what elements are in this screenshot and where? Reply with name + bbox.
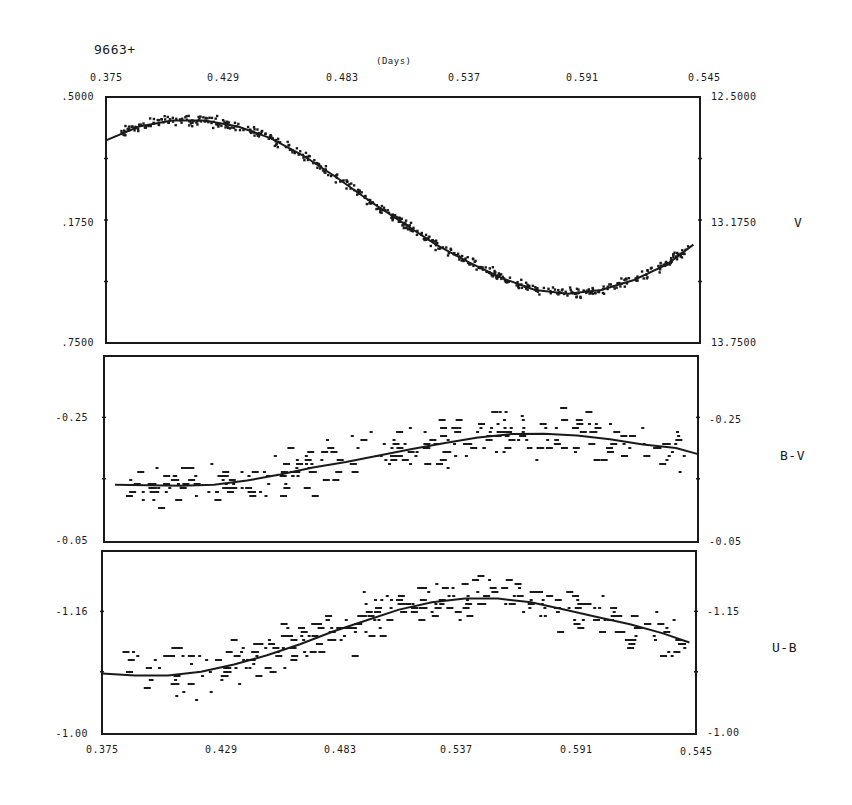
data-point: [575, 296, 577, 298]
data-point: [528, 607, 531, 609]
data-point: [436, 607, 439, 609]
data-point: [532, 285, 534, 287]
data-point: [475, 268, 477, 270]
data-point: [473, 261, 475, 263]
data-point: [535, 459, 538, 461]
data-point: [225, 671, 228, 673]
data-point: [265, 667, 272, 669]
data-point: [467, 595, 470, 597]
data-point: [412, 603, 415, 605]
data-point: [632, 615, 635, 617]
data-point: [154, 487, 157, 489]
data-point: [325, 615, 332, 617]
data-point: [561, 447, 568, 449]
data-point: [509, 603, 516, 605]
data-point: [503, 427, 506, 429]
data-point: [364, 631, 367, 633]
data-point: [198, 655, 201, 657]
data-point: [441, 603, 444, 605]
data-point: [543, 607, 546, 609]
data-point: [380, 599, 383, 601]
data-point: [530, 599, 533, 601]
data-point: [619, 285, 621, 287]
data-point: [188, 683, 195, 685]
data-point: [305, 655, 308, 657]
data-point: [561, 289, 563, 291]
data-point: [310, 651, 317, 653]
data-point: [544, 427, 547, 429]
data-point: [557, 631, 564, 633]
data-point: [479, 427, 482, 429]
data-point: [129, 479, 132, 481]
data-point: [396, 431, 403, 433]
data-point: [662, 443, 669, 445]
data-point: [452, 587, 455, 589]
data-point: [577, 288, 579, 290]
data-point: [256, 128, 258, 130]
data-point: [543, 287, 545, 289]
data-point: [409, 463, 412, 465]
data-point: [628, 643, 635, 645]
data-point: [400, 611, 407, 613]
data-point: [222, 479, 225, 481]
v-left-tick-0: .5000: [40, 91, 94, 102]
data-point: [211, 117, 213, 119]
data-point: [296, 475, 299, 477]
bottom-x-tick-4: 0.591: [560, 744, 593, 755]
data-point: [449, 248, 451, 250]
data-point: [595, 427, 602, 429]
data-point: [424, 463, 431, 465]
data-point: [122, 651, 129, 653]
data-point: [522, 419, 525, 421]
data-point: [375, 208, 377, 210]
data-point: [345, 179, 347, 181]
data-point: [434, 603, 437, 605]
data-point: [657, 623, 664, 625]
data-point: [554, 443, 561, 445]
data-point: [248, 491, 251, 493]
data-point: [442, 451, 449, 453]
data-point: [137, 471, 144, 473]
data-point: [431, 611, 434, 613]
data-point: [445, 246, 447, 248]
data-point: [644, 623, 651, 625]
data-point: [405, 227, 407, 229]
v-right-tick-2: 13.7500: [711, 337, 757, 348]
data-point: [504, 603, 507, 605]
data-point: [577, 627, 584, 629]
data-point: [390, 607, 393, 609]
data-point: [222, 119, 224, 121]
data-point: [290, 639, 297, 641]
data-point: [625, 639, 632, 641]
data-point: [467, 256, 469, 258]
data-point: [568, 607, 571, 609]
data-point: [149, 667, 152, 669]
data-point: [456, 419, 463, 421]
data-point: [227, 126, 229, 128]
data-point: [381, 205, 383, 207]
data-point: [606, 447, 613, 449]
data-point: [573, 619, 576, 621]
data-point: [343, 635, 346, 637]
data-point: [529, 447, 532, 449]
data-point: [608, 283, 610, 285]
data-point: [272, 647, 279, 649]
data-point: [574, 451, 577, 453]
v-left-tick-2: .7500: [40, 337, 94, 348]
data-point: [427, 591, 430, 593]
bottom-x-tick-3: 0.537: [440, 744, 473, 755]
data-point: [463, 607, 470, 609]
data-point: [253, 128, 255, 130]
data-point: [163, 115, 165, 117]
data-point: [327, 447, 334, 449]
data-point: [572, 427, 579, 429]
data-point: [610, 443, 617, 445]
data-point: [588, 443, 595, 445]
data-point: [259, 491, 262, 493]
data-point: [234, 122, 236, 124]
data-point: [290, 659, 297, 661]
data-point: [489, 267, 491, 269]
data-point: [288, 144, 290, 146]
data-point: [447, 254, 449, 256]
data-point: [641, 427, 644, 429]
